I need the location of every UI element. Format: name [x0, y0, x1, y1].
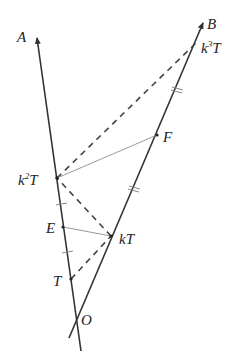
- ray-oa: [37, 38, 81, 351]
- tick-k2t-e: [56, 203, 67, 205]
- label-kt: kT: [119, 231, 136, 247]
- label-f: F: [162, 129, 173, 145]
- point-kt: [109, 234, 112, 237]
- ray-ob: [69, 23, 203, 338]
- segment-e-kt: [63, 227, 111, 236]
- double-tick-kt-f: [128, 186, 140, 192]
- point-k2t: [55, 176, 59, 180]
- label-k3t: k3T: [201, 39, 222, 56]
- segment-k2t-f: [57, 135, 157, 178]
- label-e: E: [45, 220, 55, 236]
- geometry-diagram: A B k3T F k2T E kT T O: [0, 0, 239, 363]
- label-a: A: [16, 29, 27, 45]
- dashed-t-kt: [71, 236, 111, 279]
- label-t: T: [53, 273, 63, 289]
- point-f: [155, 133, 158, 136]
- point-t: [69, 277, 72, 280]
- label-b: B: [207, 16, 216, 32]
- label-k2t: k2T: [18, 171, 39, 188]
- label-o: O: [81, 312, 92, 328]
- point-e: [61, 225, 64, 228]
- dashed-k2t-k3t: [57, 43, 196, 178]
